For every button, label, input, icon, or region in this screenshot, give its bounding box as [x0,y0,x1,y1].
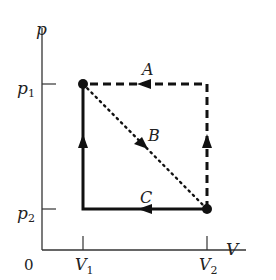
origin-label: 0 [24,256,34,274]
v2-label: V2 [199,255,218,277]
p1-label: p1 [17,78,35,100]
path-b-label: B [147,126,160,145]
path-c: C [78,84,207,214]
path-b-arrow-icon [134,137,148,149]
path-c-up-arrow-icon [78,134,88,148]
path-a-label: A [140,60,154,79]
path-a-up-arrow-icon [202,134,212,148]
x-axis-label: V [226,239,240,259]
y-axis-label: p [36,19,47,39]
p2-label: p2 [17,203,35,225]
pv-diagram: p V 0 p1 p2 V1 V2 C A B [0,0,276,280]
v1-label: V1 [75,255,94,277]
state-2-point [202,204,212,214]
path-c-label: C [140,188,152,207]
path-a-arrow-icon [137,79,151,89]
state-1-point [78,79,88,89]
